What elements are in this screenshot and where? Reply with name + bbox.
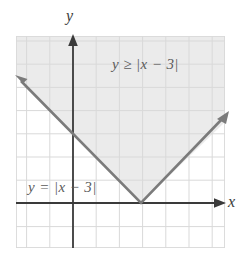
x-axis-label: x — [228, 194, 235, 210]
equation-annotation: y = |x − 3| — [28, 180, 97, 195]
inequality-annotation: y ≥ |x − 3| — [112, 57, 179, 72]
graph-figure: y x y ≥ |x − 3| y = |x − 3| — [0, 0, 246, 263]
coordinate-plane — [0, 0, 246, 263]
y-axis-label: y — [66, 8, 73, 24]
